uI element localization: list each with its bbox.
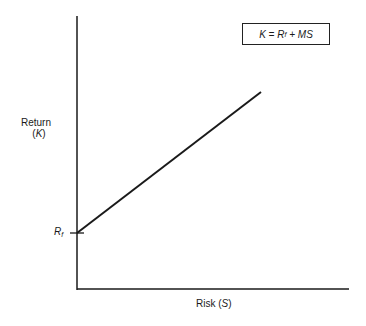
eq-k: K (259, 29, 266, 40)
eq-r: R (277, 29, 284, 40)
equation-box: K = Rf + MS (242, 23, 330, 45)
eq-ms: + MS (286, 29, 312, 40)
y-axis-label: Return (K) (18, 117, 54, 139)
diagram-canvas (0, 0, 366, 326)
x-axis-label: Risk (S) (196, 298, 232, 309)
y-axis-label-line2: (K) (18, 128, 54, 139)
security-market-line (77, 92, 261, 233)
y-axis-label-line1: Return (18, 117, 54, 128)
eq-equals: = (266, 29, 277, 40)
rf-label: Rf (54, 226, 63, 240)
